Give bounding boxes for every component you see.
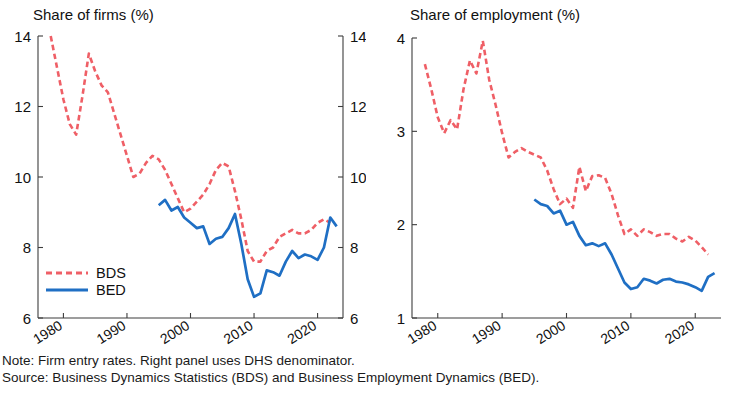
series-line-bds xyxy=(51,36,331,262)
legend-label-bds: BDS xyxy=(96,265,126,281)
x-tick-label: 1990 xyxy=(469,317,504,347)
y-tick-label: 6 xyxy=(23,310,31,327)
chart-svg-share-of-firms: 668810101212141419801990200020102020BDSB… xyxy=(0,0,366,350)
x-tick-label: 2010 xyxy=(598,317,633,347)
y-tick-label: 8 xyxy=(23,239,31,256)
y-tick-label: 12 xyxy=(14,98,31,115)
x-tick-label: 2000 xyxy=(533,317,568,347)
y-tick-label-right: 10 xyxy=(350,169,366,186)
panel-title-right: Share of employment (%) xyxy=(410,6,580,23)
y-tick-label: 1 xyxy=(397,310,405,327)
x-tick-label: 2020 xyxy=(662,317,697,347)
series-line-bed xyxy=(159,200,337,297)
x-tick-label: 2010 xyxy=(221,317,256,347)
x-tick-label: 1990 xyxy=(94,317,129,347)
y-tick-label: 2 xyxy=(397,216,405,233)
figure-root: Share of firms (%) 668810101212141419801… xyxy=(0,0,732,400)
x-tick-label: 2020 xyxy=(284,317,319,347)
y-tick-label: 4 xyxy=(397,30,405,47)
legend-label-bed: BED xyxy=(96,282,126,298)
footnote-source: Source: Business Dynamics Statistics (BD… xyxy=(2,369,730,386)
y-tick-label-right: 8 xyxy=(350,239,358,256)
x-tick-label: 1980 xyxy=(404,317,439,347)
y-tick-label-right: 12 xyxy=(350,98,366,115)
x-tick-label: 2000 xyxy=(157,317,192,347)
y-tick-label: 3 xyxy=(397,123,405,140)
chart-svg-share-of-employment: 123419801990200020102020 xyxy=(366,0,732,350)
panel-title-left: Share of firms (%) xyxy=(33,6,154,23)
chart-panel-share-of-employment: Share of employment (%) 1234198019902000… xyxy=(366,0,732,350)
footnote-note: Note: Firm entry rates. Right panel uses… xyxy=(2,352,730,369)
y-tick-label-right: 6 xyxy=(350,310,358,327)
y-tick-label: 10 xyxy=(14,169,31,186)
footnotes: Note: Firm entry rates. Right panel uses… xyxy=(2,352,730,386)
series-line-bed xyxy=(534,199,714,290)
y-tick-label: 14 xyxy=(14,28,31,45)
y-tick-label-right: 14 xyxy=(350,28,366,45)
chart-panel-share-of-firms: Share of firms (%) 668810101212141419801… xyxy=(0,0,366,350)
x-tick-label: 1980 xyxy=(30,317,65,347)
